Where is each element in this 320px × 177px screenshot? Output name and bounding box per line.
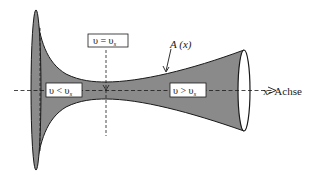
inlet-ellipse [31,10,41,170]
laval-nozzle-diagram: υ = υs υ < υs υ > υs A (x) x- Achse [0,0,320,177]
area-label: A (x) [169,38,192,51]
x-axis-label: x- Achse [263,85,302,97]
sonic-velocity-label: υ = υs [88,34,128,48]
supersonic-velocity-label: υ > υs [170,83,206,98]
subsonic-velocity-label: υ < υs [46,83,82,98]
